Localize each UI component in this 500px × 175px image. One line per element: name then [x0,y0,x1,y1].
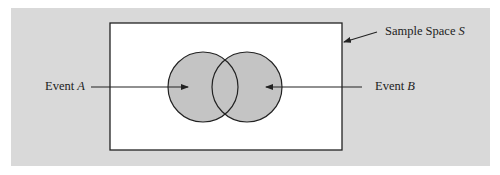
event-a-label-text: Event [45,79,77,93]
sample-space-label: Sample Space S [385,24,465,39]
sample-space-label-text: Sample Space [385,24,459,38]
sample-space-label-var: S [459,24,465,38]
event-a-label: Event A [45,79,85,94]
sample-space-arrow [344,32,377,42]
event-b-label-var: B [407,79,415,93]
event-b-label: Event B [375,79,415,94]
event-a-label-var: A [77,79,85,93]
event-b-label-text: Event [375,79,407,93]
